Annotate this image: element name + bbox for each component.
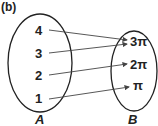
set-b-name: B [128, 112, 137, 126]
set-b-element-3pi: 3π [130, 35, 147, 48]
set-a-element-4: 4 [35, 24, 42, 37]
arrow-4-to-3pi [49, 30, 127, 40]
set-a-element-2: 2 [35, 69, 42, 82]
arrow-2-to-2pi [49, 64, 127, 75]
set-b-element-pi: π [133, 79, 143, 92]
set-a-element-3: 3 [35, 47, 42, 60]
set-b-element-2pi: 2π [130, 58, 147, 71]
set-a-element-1: 1 [35, 92, 42, 105]
set-a-name: A [35, 112, 44, 126]
